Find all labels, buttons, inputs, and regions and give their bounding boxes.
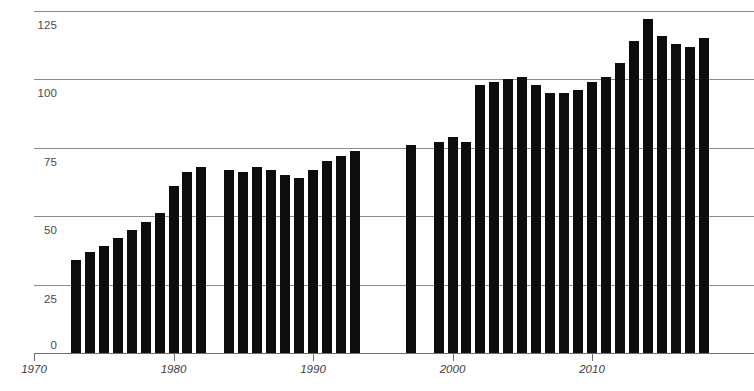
xtick-label: 1970	[21, 363, 47, 375]
bar	[169, 186, 179, 353]
bar	[671, 44, 681, 353]
bar	[406, 145, 416, 353]
bar	[85, 252, 95, 353]
bar	[127, 230, 137, 353]
gridline-125	[34, 11, 754, 12]
bar	[113, 238, 123, 353]
bar	[559, 93, 569, 353]
bar	[71, 260, 81, 353]
bar	[587, 82, 597, 353]
bar	[434, 142, 444, 353]
bar	[461, 142, 471, 353]
x-axis-line	[34, 353, 754, 354]
xtick-label: 2000	[440, 363, 466, 375]
bar	[601, 77, 611, 353]
bar	[196, 167, 206, 353]
bar	[643, 19, 653, 353]
ytick-label-50: 50	[27, 225, 57, 236]
ytick-label-25: 25	[27, 294, 57, 305]
bar	[224, 170, 234, 353]
bar	[545, 93, 555, 353]
bar	[350, 151, 360, 353]
bar	[615, 63, 625, 353]
xtick-label: 2010	[579, 363, 605, 375]
bar	[99, 246, 109, 353]
ytick-label-100: 100	[27, 88, 57, 99]
x-axis-tick	[592, 353, 593, 361]
x-axis-tick	[453, 353, 454, 361]
plot-area: 125 100 75 50 25 0 19701980199020002010	[0, 0, 754, 391]
bar	[266, 170, 276, 353]
bar	[475, 85, 485, 353]
xtick-label: 1980	[161, 363, 187, 375]
x-axis-tick	[313, 353, 314, 361]
bar	[155, 213, 165, 353]
bar	[448, 137, 458, 353]
bar	[280, 175, 290, 353]
bar	[308, 170, 318, 353]
bar	[531, 85, 541, 353]
ytick-label-125: 125	[27, 20, 57, 31]
bar	[699, 38, 709, 353]
x-axis-tick	[174, 353, 175, 361]
ytick-label-0: 0	[27, 340, 57, 351]
bar	[517, 77, 527, 353]
bar	[252, 167, 262, 353]
bar	[657, 36, 667, 353]
bar	[238, 172, 248, 353]
bar	[489, 82, 499, 353]
bar	[336, 156, 346, 353]
ytick-label-75: 75	[27, 157, 57, 168]
bar	[141, 222, 151, 353]
bar	[685, 47, 695, 353]
bar	[294, 178, 304, 353]
xtick-label: 1990	[300, 363, 326, 375]
bar	[629, 41, 639, 353]
bar	[182, 172, 192, 353]
bar	[503, 79, 513, 353]
bar-chart: 125 100 75 50 25 0 19701980199020002010	[0, 0, 754, 391]
x-axis-tick	[34, 353, 35, 361]
bar	[322, 161, 332, 353]
bar	[573, 90, 583, 353]
